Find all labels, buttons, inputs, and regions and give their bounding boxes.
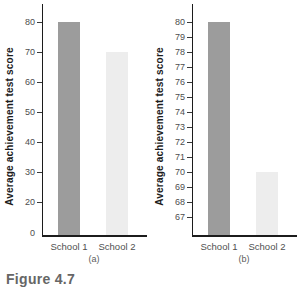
y-tick-label: 72: [161, 138, 185, 147]
bar-school-1: [58, 22, 80, 235]
chart-panel-a: Average achievement test score 807060504…: [0, 0, 150, 281]
y-tick-mark: [187, 157, 192, 158]
y-tick-label: 79: [161, 33, 185, 42]
x-axis-line: [42, 235, 147, 237]
y-tick-label: 78: [161, 48, 185, 57]
y-tick-mark: [187, 202, 192, 203]
chart-panel-b: Average achievement test score 807978777…: [150, 0, 300, 281]
y-tick-label: 80: [161, 18, 185, 27]
y-tick-label: 68: [161, 198, 185, 207]
category-label-school-1: School 1: [194, 241, 244, 252]
y-tick-label: 74: [161, 108, 185, 117]
y-tick-label: 40: [11, 138, 35, 147]
y-axis-line: [192, 4, 193, 237]
y-tick-mark: [37, 112, 42, 113]
y-tick-label: 69: [161, 183, 185, 192]
y-tick-mark: [37, 172, 42, 173]
y-tick-mark: [37, 22, 42, 23]
bar-school-2: [106, 52, 128, 235]
y-tick-label: 50: [11, 108, 35, 117]
y-tick-label: 77: [161, 63, 185, 72]
plot-area-a: 807060504030200School 1School 2: [0, 0, 150, 281]
bar-school-2: [256, 172, 278, 235]
category-label-school-2: School 2: [242, 241, 292, 252]
y-tick-mark: [187, 172, 192, 173]
figure-caption: Figure 4.7: [6, 271, 75, 287]
category-label-school-2: School 2: [92, 241, 142, 252]
y-tick-mark: [187, 97, 192, 98]
y-tick-label: 30: [11, 168, 35, 177]
y-tick-label: 71: [161, 153, 185, 162]
bar-school-1: [208, 22, 230, 235]
y-tick-label: 75: [161, 93, 185, 102]
y-axis-line: [42, 4, 43, 237]
y-tick-label: 70: [161, 168, 185, 177]
category-label-school-1: School 1: [44, 241, 94, 252]
y-tick-mark: [187, 217, 192, 218]
y-origin-label: 0: [11, 229, 35, 238]
y-tick-mark: [187, 52, 192, 53]
y-tick-label: 80: [11, 18, 35, 27]
y-tick-mark: [187, 112, 192, 113]
y-tick-mark: [37, 142, 42, 143]
y-tick-label: 60: [11, 78, 35, 87]
y-tick-label: 70: [11, 48, 35, 57]
y-tick-mark: [37, 52, 42, 53]
y-tick-mark: [187, 67, 192, 68]
panel-label-a: (a): [42, 254, 146, 264]
y-tick-mark: [37, 202, 42, 203]
y-tick-mark: [187, 127, 192, 128]
y-tick-mark: [187, 37, 192, 38]
y-tick-mark: [187, 187, 192, 188]
y-tick-mark: [187, 142, 192, 143]
y-tick-label: 76: [161, 78, 185, 87]
y-tick-mark: [187, 22, 192, 23]
y-tick-label: 20: [11, 198, 35, 207]
y-tick-mark: [187, 82, 192, 83]
y-tick-label: 73: [161, 123, 185, 132]
x-axis-line: [192, 235, 297, 237]
y-tick-label: 67: [161, 213, 185, 222]
panel-label-b: (b): [192, 254, 296, 264]
y-tick-mark: [37, 82, 42, 83]
plot-area-b: 8079787776757473727170696867School 1Scho…: [150, 0, 300, 281]
